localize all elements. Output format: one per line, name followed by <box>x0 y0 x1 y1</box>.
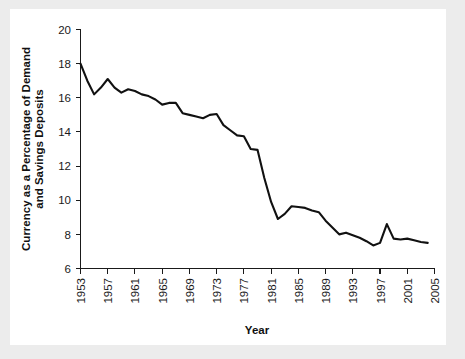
x-tick-label: 1973 <box>211 278 223 304</box>
x-tick-label: 1957 <box>102 278 114 304</box>
x-tick-label: 2001 <box>402 278 414 304</box>
x-tick-label: 1965 <box>157 278 169 304</box>
x-tick-label: 1969 <box>184 278 196 304</box>
x-tick-label: 1997 <box>375 278 387 304</box>
data-series-line <box>81 64 428 246</box>
y-tick-label: 12 <box>58 160 71 172</box>
x-tick-label: 1985 <box>293 278 305 304</box>
y-axis-title-line2: and Savings Deposits <box>33 89 45 209</box>
y-tick-label: 20 <box>58 24 71 36</box>
x-tick-labels: 1953 1957 1961 1965 1969 1973 1977 1981 … <box>75 278 441 304</box>
x-tick-label: 2005 <box>429 278 441 304</box>
y-tick-label: 18 <box>58 58 71 70</box>
x-tick-label: 1989 <box>320 278 332 304</box>
y-axis-title-line1: Currency as a Percentage of Demand <box>20 47 32 251</box>
figure-outer-border: 6 8 10 12 14 16 18 20 <box>0 0 465 359</box>
y-tick-label: 6 <box>65 263 71 275</box>
x-tick-label: 1993 <box>347 278 359 304</box>
x-tick-marks <box>81 269 435 274</box>
y-tick-label: 16 <box>58 92 71 104</box>
y-tick-marks <box>76 30 81 269</box>
y-tick-label: 10 <box>58 194 71 206</box>
line-chart: 6 8 10 12 14 16 18 20 <box>10 9 446 345</box>
y-tick-labels: 6 8 10 12 14 16 18 20 <box>58 24 71 275</box>
y-tick-label: 14 <box>58 126 71 138</box>
y-tick-label: 8 <box>65 229 71 241</box>
x-axis-title: Year <box>245 324 270 336</box>
chart-panel: 6 8 10 12 14 16 18 20 <box>10 9 446 345</box>
x-tick-label: 1953 <box>75 278 87 304</box>
x-tick-label: 1977 <box>238 278 250 304</box>
x-tick-label: 1981 <box>266 278 278 304</box>
x-tick-label: 1961 <box>129 278 141 304</box>
